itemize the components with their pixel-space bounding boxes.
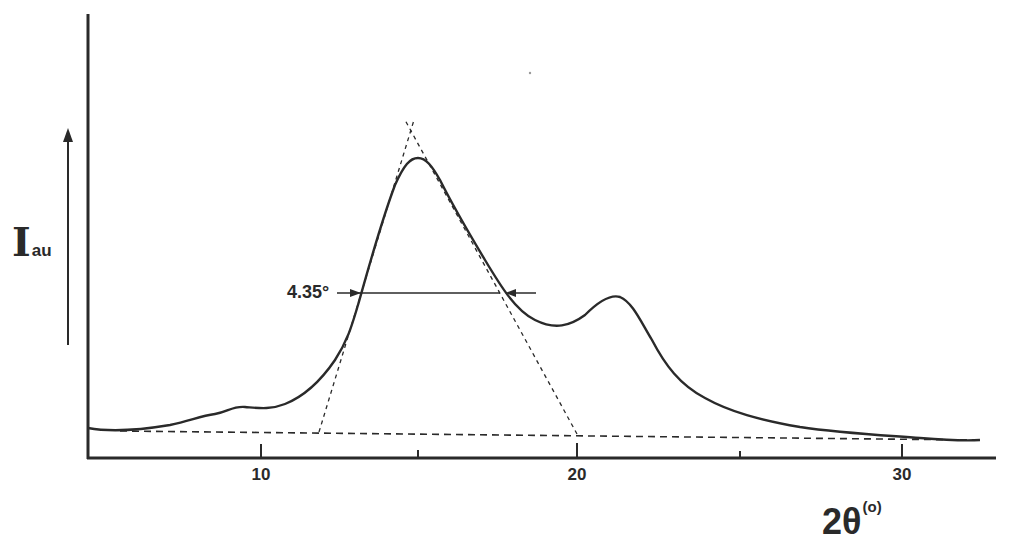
x-axis-label: 2θ(o) [822,498,882,543]
diffraction-curve [88,158,980,440]
x-ticks [261,443,902,458]
fwhm-label: 4.35° [287,282,329,303]
y-arrow-icon [63,128,73,345]
x-tick-label-30: 30 [893,465,912,485]
x-axis-unit: (o) [862,498,881,515]
x-tick-label-20: 20 [568,465,587,485]
y-axis-symbol: I [12,218,31,265]
x-tick-label-10: 10 [252,465,271,485]
x-axis-symbol: 2θ [822,501,861,542]
y-axis-subscript: au [32,241,52,260]
y-axis-label: Iau [12,218,52,265]
xrd-chart [0,0,1009,549]
fwhm-marker [337,289,536,297]
